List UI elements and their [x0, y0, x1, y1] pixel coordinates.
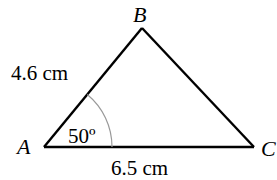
- side-ac-label: 6.5 cm: [111, 156, 168, 180]
- vertex-label-a: A: [15, 134, 31, 159]
- vertex-label-b: B: [133, 2, 146, 27]
- triangle-diagram: B A C 4.6 cm 6.5 cm 50º: [0, 0, 277, 180]
- vertex-label-c: C: [261, 136, 276, 161]
- side-bc: [142, 28, 254, 147]
- side-ab-label: 4.6 cm: [11, 61, 68, 85]
- angle-a-label: 50º: [68, 124, 96, 148]
